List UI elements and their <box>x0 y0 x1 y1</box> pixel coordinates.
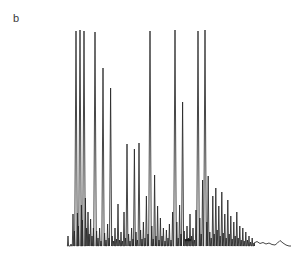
figure-panel: b <box>0 0 294 266</box>
ink-blob-artifact <box>185 239 192 242</box>
spectrum-trace <box>0 0 294 266</box>
artifact-layer <box>185 239 192 242</box>
trace-line <box>67 30 291 246</box>
